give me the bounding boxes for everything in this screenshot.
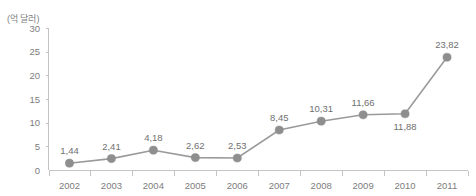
y-tick-label: 5 — [35, 141, 40, 152]
data-point-label: 23,82 — [435, 39, 459, 50]
data-point-marker — [401, 110, 409, 118]
data-point-label: 1,44 — [60, 145, 79, 156]
x-tick-label: 2004 — [143, 180, 164, 191]
data-point-label: 10,31 — [309, 103, 333, 114]
data-point-label: 8,45 — [270, 112, 289, 123]
y-tick-label: 20 — [29, 70, 40, 81]
y-axis-tick-labels: 051015202530 — [29, 23, 40, 176]
data-point-marker — [191, 154, 199, 162]
data-point-label: 4,18 — [144, 132, 163, 143]
data-point-marker — [359, 111, 367, 119]
data-point-marker — [65, 159, 73, 167]
y-tick-label: 0 — [35, 165, 40, 176]
x-tick-label: 2006 — [227, 180, 248, 191]
data-point-label: 2,41 — [102, 141, 121, 152]
data-point-labels: 1,442,414,182,622,538,4510,3111,6611,882… — [60, 39, 459, 156]
data-point-marker — [275, 126, 283, 134]
data-point-marker — [443, 53, 451, 61]
x-tick-label: 2011 — [437, 180, 457, 191]
series-markers — [65, 53, 451, 167]
x-tick-label: 2010 — [395, 180, 416, 191]
x-tick-label: 2005 — [185, 180, 206, 191]
data-point-label: 11,88 — [394, 121, 417, 132]
x-tick-label: 2008 — [311, 180, 332, 191]
x-axis-tick-labels: 2002200320042005200620072008200920102011 — [59, 180, 457, 191]
y-tick-label: 15 — [29, 94, 40, 105]
x-tick-label: 2002 — [59, 180, 80, 191]
data-point-marker — [149, 146, 157, 154]
chart-plot-area: 051015202530 1,442,414,182,622,538,4510,… — [0, 0, 476, 196]
data-point-label: 2,62 — [186, 140, 205, 151]
series-line — [69, 57, 447, 163]
x-tick-label: 2009 — [353, 180, 374, 191]
data-point-marker — [233, 154, 241, 162]
data-point-marker — [107, 154, 115, 162]
x-axis-tick-marks — [50, 171, 469, 176]
y-tick-label: 30 — [29, 23, 40, 34]
data-point-label: 2,53 — [228, 140, 247, 151]
data-point-label: 11,66 — [352, 97, 375, 108]
x-tick-label: 2007 — [269, 180, 290, 191]
x-tick-label: 2003 — [101, 180, 122, 191]
line-chart: (억 달러) 051015202530 1,442,414,182,622,53… — [0, 0, 476, 196]
data-point-marker — [317, 117, 325, 125]
y-tick-label: 25 — [29, 46, 40, 57]
y-tick-label: 10 — [29, 117, 40, 128]
